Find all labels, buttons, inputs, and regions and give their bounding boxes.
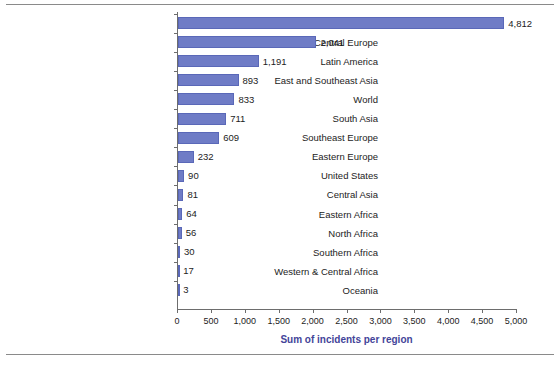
- y-axis-tick: [174, 71, 178, 72]
- category-label: United States: [321, 166, 378, 185]
- x-axis-tick-label: 1,500: [267, 316, 290, 326]
- bar-value-label: 81: [187, 187, 198, 202]
- y-axis-tick: [174, 205, 178, 206]
- bar: [178, 113, 226, 125]
- bar-value-label: 17: [183, 263, 194, 278]
- x-axis-tick: [211, 309, 212, 313]
- x-axis-tick-label: 5,000: [505, 316, 528, 326]
- bar-value-label: 833: [238, 92, 254, 107]
- bar: [178, 93, 234, 105]
- bar-value-label: 232: [198, 149, 214, 164]
- y-axis-tick: [174, 166, 178, 167]
- chart-page: Near and Middle East4,812Western and Cen…: [0, 0, 560, 369]
- x-axis-line: 05001,0001,5002,0002,5003,0003,5004,0004…: [177, 309, 516, 310]
- bottom-divider-rule: [6, 354, 554, 355]
- category-label: North Africa: [328, 224, 378, 243]
- y-axis-tick: [174, 128, 178, 129]
- x-axis-tick: [414, 309, 415, 313]
- bar: [178, 55, 259, 67]
- bar: [178, 36, 316, 48]
- bar: [178, 132, 219, 144]
- bar-value-label: 2,041: [320, 35, 344, 50]
- y-axis-tick: [174, 33, 178, 34]
- x-axis-title: Sum of incidents per region: [177, 334, 516, 345]
- bar-row: Eastern Europe232: [178, 147, 560, 166]
- bar-row: Southeast Europe609: [178, 128, 560, 147]
- bar: [178, 189, 183, 201]
- bar-row: Southern Africa30: [178, 243, 560, 262]
- category-label: World: [353, 90, 378, 109]
- x-axis-tick-label: 500: [203, 316, 218, 326]
- y-axis-tick: [174, 147, 178, 148]
- category-label: Central Asia: [327, 185, 378, 204]
- bar-value-label: 893: [243, 73, 259, 88]
- x-axis-tick-label: 1,000: [234, 316, 257, 326]
- bar: [178, 17, 504, 29]
- category-label: East and Southeast Asia: [274, 71, 378, 90]
- bar: [178, 208, 182, 220]
- x-axis-tick: [347, 309, 348, 313]
- bar: [178, 265, 180, 277]
- category-label: South Asia: [333, 109, 378, 128]
- y-axis-tick: [174, 14, 178, 15]
- y-axis-tick: [174, 109, 178, 110]
- y-axis-tick: [174, 185, 178, 186]
- bar-value-label: 30: [184, 244, 195, 259]
- category-label: Southern Africa: [313, 243, 378, 262]
- x-axis-tick: [516, 309, 517, 313]
- bar-row: Western & Central Africa17: [178, 262, 560, 281]
- bar-row: East and Southeast Asia893: [178, 71, 560, 90]
- bar-row: Near and Middle East4,812: [178, 14, 560, 33]
- x-axis-tick: [482, 309, 483, 313]
- category-label: Eastern Africa: [319, 205, 378, 224]
- category-label: Eastern Europe: [312, 147, 378, 166]
- bar-value-label: 4,812: [508, 16, 532, 31]
- bar: [178, 170, 184, 182]
- bar-row: Western and Central Europe2,041: [178, 33, 560, 52]
- bar-value-label: 56: [186, 225, 197, 240]
- bar-row: Central Asia81: [178, 185, 560, 204]
- bar-row: World833: [178, 90, 560, 109]
- bar-value-label: 711: [230, 111, 245, 126]
- x-axis-tick-label: 0: [174, 316, 179, 326]
- bar: [178, 227, 182, 239]
- x-axis-tick: [448, 309, 449, 313]
- bar-row: Eastern Africa64: [178, 205, 560, 224]
- x-axis-tick: [380, 309, 381, 313]
- plot-area: Near and Middle East4,812Western and Cen…: [177, 12, 517, 309]
- category-label: Western & Central Africa: [274, 262, 378, 281]
- x-axis-tick: [313, 309, 314, 313]
- x-axis-tick: [245, 309, 246, 313]
- x-axis-tick-label: 2,000: [301, 316, 324, 326]
- bar-value-label: 609: [223, 130, 239, 145]
- bar-value-label: 90: [188, 168, 199, 183]
- y-axis-tick: [174, 281, 178, 282]
- x-axis-tick: [177, 309, 178, 313]
- bar-row: Oceania3: [178, 281, 560, 300]
- bar: [178, 151, 194, 163]
- bar: [178, 284, 180, 296]
- bar-row: North Africa56: [178, 224, 560, 243]
- category-label: Oceania: [343, 281, 378, 300]
- x-axis-tick-label: 3,500: [403, 316, 426, 326]
- category-label: Latin America: [320, 52, 378, 71]
- y-axis-tick: [174, 52, 178, 53]
- x-axis-tick-label: 3,000: [369, 316, 392, 326]
- x-axis-tick-label: 2,500: [335, 316, 358, 326]
- category-label: Southeast Europe: [302, 128, 378, 147]
- y-axis-tick: [174, 243, 178, 244]
- bar-row: Latin America1,191: [178, 52, 560, 71]
- y-axis-tick: [174, 90, 178, 91]
- bar-value-label: 3: [183, 282, 188, 297]
- y-axis-tick: [174, 224, 178, 225]
- bar-row: South Asia711: [178, 109, 560, 128]
- horizontal-bar-chart: Near and Middle East4,812Western and Cen…: [0, 12, 560, 352]
- x-axis-tick: [279, 309, 280, 313]
- x-axis-tick-label: 4,500: [471, 316, 494, 326]
- y-axis-tick: [174, 262, 178, 263]
- bar-value-label: 1,191: [263, 54, 287, 69]
- bar-value-label: 64: [186, 206, 197, 221]
- top-divider-rule: [6, 4, 554, 5]
- x-axis-tick-label: 4,000: [437, 316, 460, 326]
- bar-row: United States90: [178, 166, 560, 185]
